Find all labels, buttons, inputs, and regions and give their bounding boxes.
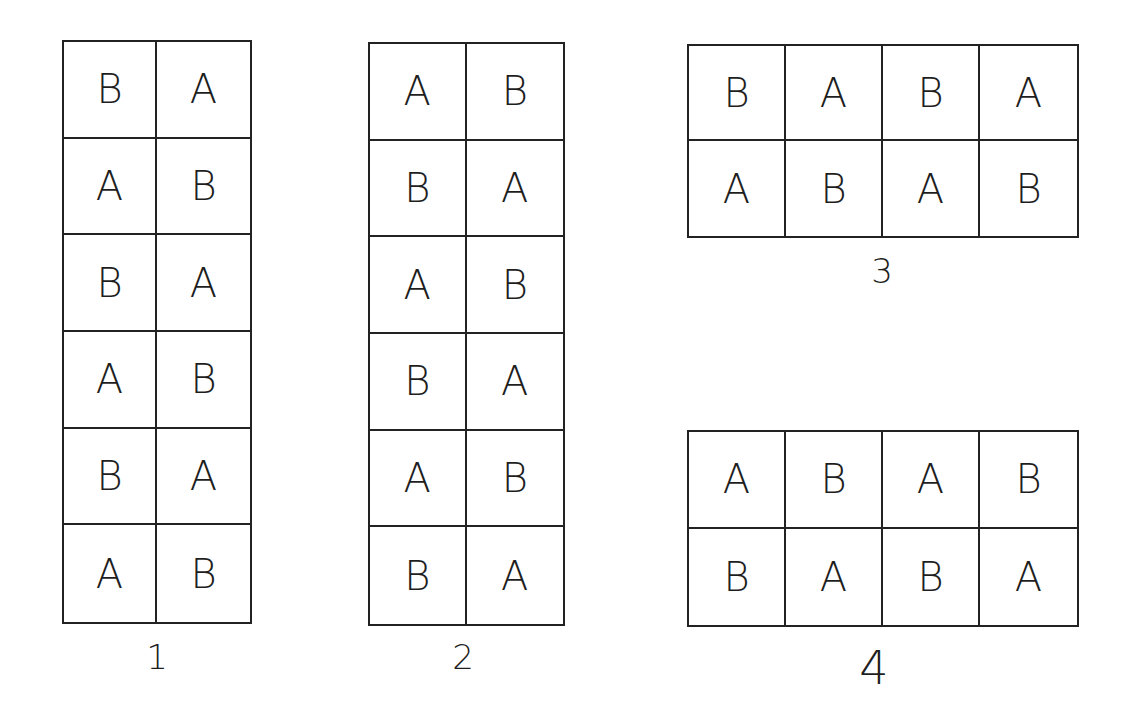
grid-1-cell: A (64, 332, 157, 429)
grid-1-cell: B (157, 139, 250, 236)
grid-3-cell: A (786, 46, 883, 141)
grid-1-label: 1 (127, 640, 187, 674)
grid-3-cell: A (689, 141, 786, 236)
grid-2-cell: A (370, 44, 467, 141)
grid-1-cell: A (157, 429, 250, 526)
grid-3-cell: B (883, 46, 980, 141)
grid-1-cell: A (157, 42, 250, 139)
grid-4-cell: A (980, 529, 1077, 626)
grid-2-cell: A (370, 431, 467, 528)
grid-2-cell: A (467, 527, 564, 624)
grid-1-cell: B (64, 429, 157, 526)
grid-4-label: 4 (844, 645, 904, 691)
grid-3-label: 3 (852, 254, 912, 288)
grid-4-cell: A (786, 529, 883, 626)
grid-1-cell: A (157, 235, 250, 332)
grid-1-cell: B (157, 525, 250, 622)
grid-2-cell: B (370, 334, 467, 431)
grid-2-cell: B (370, 141, 467, 238)
grid-2-cell: B (467, 431, 564, 528)
grid-3-cell: A (980, 46, 1077, 141)
grid-4-cell: B (689, 529, 786, 626)
grid-1-cell: A (64, 139, 157, 236)
grid-3-cell: B (980, 141, 1077, 236)
grid-4: A B A B B A B A (687, 430, 1079, 627)
grid-2-label: 2 (433, 640, 493, 674)
grid-1-cell: B (64, 42, 157, 139)
grid-3-cell: B (689, 46, 786, 141)
grid-2: A B B A A B B A A B B A (368, 42, 565, 626)
grid-1-cell: B (64, 235, 157, 332)
grid-2-cell: A (467, 141, 564, 238)
grid-2-cell: B (467, 44, 564, 141)
grid-1: B A A B B A A B B A A B (62, 40, 252, 624)
grid-4-cell: B (786, 432, 883, 529)
grid-4-cell: B (883, 529, 980, 626)
grid-1-cell: A (64, 525, 157, 622)
grid-4-cell: A (883, 432, 980, 529)
grid-3: B A B A A B A B (687, 44, 1079, 238)
grid-4-cell: B (980, 432, 1077, 529)
grid-1-cell: B (157, 332, 250, 429)
grid-3-cell: B (786, 141, 883, 236)
grid-2-cell: A (370, 237, 467, 334)
grid-2-cell: B (467, 237, 564, 334)
grid-2-cell: A (467, 334, 564, 431)
grid-2-cell: B (370, 527, 467, 624)
grid-3-cell: A (883, 141, 980, 236)
grid-4-cell: A (689, 432, 786, 529)
